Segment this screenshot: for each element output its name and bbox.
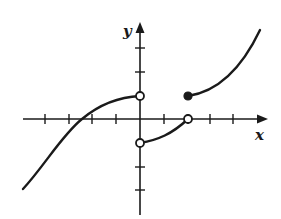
left-branch-curve: [23, 96, 140, 189]
piecewise-function-graph: y x: [0, 0, 281, 219]
y-axis-arrow-icon: [136, 22, 145, 33]
x-axis-label: x: [254, 126, 265, 144]
x-axis-arrow-icon: [257, 115, 268, 124]
open-circle-marker: [184, 115, 192, 123]
open-circle-marker: [136, 139, 144, 147]
right-branch-curve: [188, 30, 260, 96]
y-axis-label: y: [122, 22, 133, 40]
open-circle-marker: [136, 92, 144, 100]
filled-dot-marker: [184, 92, 192, 100]
